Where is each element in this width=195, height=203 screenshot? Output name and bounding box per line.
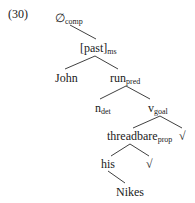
node-john: John (55, 71, 78, 85)
node-threadbare: threadbareprop (107, 129, 172, 143)
node-threadbare-label: threadbare (107, 129, 158, 143)
node-root-symbol-2: √ (146, 157, 153, 171)
node-ndet-sub: det (101, 107, 111, 116)
edge-his-nikes (108, 171, 125, 183)
node-run-sub: pred (126, 77, 140, 86)
node-past: [past]ms (80, 41, 117, 55)
node-past-sub: ms (107, 47, 116, 56)
edge-threadbare-his (111, 144, 130, 156)
node-his: his (101, 157, 115, 171)
node-comp-sub: comp (65, 17, 83, 26)
edge-run-vgoal (126, 86, 150, 99)
edge-past-run (95, 56, 118, 69)
node-vgoal: vgoal (148, 101, 168, 115)
edge-run-ndet (100, 86, 126, 99)
node-vgoal-sub: goal (154, 107, 168, 116)
edge-vgoal-threadbare (133, 116, 160, 128)
node-comp-label: ∅ (55, 11, 65, 25)
node-past-label: [past] (80, 41, 107, 55)
edge-vgoal-root (160, 116, 182, 128)
edge-past-john (65, 56, 95, 69)
edge-threadbare-root (130, 144, 149, 156)
node-root-symbol-1: √ (179, 129, 186, 143)
node-run-label: run (110, 71, 126, 85)
node-ndet: ndet (95, 101, 111, 115)
node-nikes: Nikes (116, 185, 144, 199)
node-run: runpred (110, 71, 140, 85)
node-comp: ∅comp (55, 11, 83, 25)
node-threadbare-sub: prop (158, 135, 173, 144)
edge-comp-past (70, 25, 96, 39)
